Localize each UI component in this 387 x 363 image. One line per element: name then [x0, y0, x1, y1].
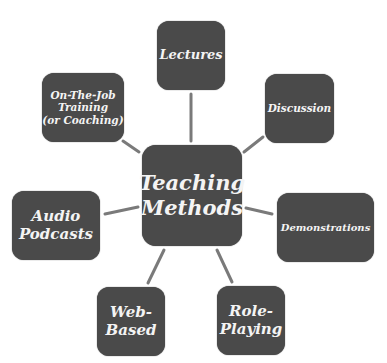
- connector-audio-podcasts: [105, 207, 138, 214]
- node-label: Demonstrations: [281, 222, 371, 234]
- connector-web-based: [148, 250, 164, 283]
- node-label: Audio Podcasts: [19, 208, 93, 243]
- node-label: Lectures: [159, 48, 222, 63]
- teaching-methods-diagram: Teaching Methods Lectures Discussion Dem…: [0, 0, 387, 363]
- node-audio-podcasts: Audio Podcasts: [12, 191, 100, 260]
- center-node-label: Teaching Methods: [139, 171, 245, 219]
- node-lectures: Lectures: [157, 21, 225, 90]
- node-role-playing: Role- Playing: [217, 286, 285, 355]
- node-demonstrations: Demonstrations: [277, 193, 374, 262]
- connector-on-the-job: [123, 141, 139, 152]
- connector-discussion: [244, 137, 263, 152]
- node-discussion: Discussion: [265, 74, 334, 143]
- node-label: Discussion: [268, 102, 331, 114]
- node-on-the-job-training: On-The-Job Training (or Coaching): [42, 73, 124, 142]
- connector-role-playing: [217, 250, 232, 282]
- node-label: Web- Based: [106, 304, 157, 339]
- node-web-based: Web- Based: [97, 287, 165, 356]
- connector-demonstrations: [246, 208, 272, 214]
- node-label: On-The-Job Training (or Coaching): [42, 89, 123, 125]
- center-node-teaching-methods: Teaching Methods: [142, 145, 242, 246]
- node-label: Role- Playing: [220, 303, 283, 338]
